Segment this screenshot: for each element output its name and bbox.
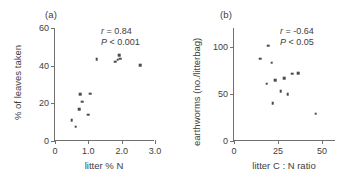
panel-b-y-tick xyxy=(230,47,234,48)
panel-a-r-value: = 0.84 xyxy=(104,26,132,36)
panel-a-x-tick xyxy=(122,140,123,144)
panel-a-data-point xyxy=(78,108,81,111)
panel-a-p-value: < 0.001 xyxy=(107,37,140,47)
panel-b-y-tick-label: 100 xyxy=(213,42,228,52)
panel-a-x-axis-title: litter % N xyxy=(85,160,124,171)
panel-b-r-value: = -0.64 xyxy=(283,26,314,36)
panel-b-y-tick-label: 50 xyxy=(218,89,228,99)
panel-b-data-point xyxy=(265,82,268,85)
panel-a-x-tick xyxy=(88,140,89,144)
panel-b-plot-area: r = -0.64 P < 0.05 05010002550 xyxy=(233,28,335,141)
panel-a-data-point xyxy=(87,113,90,116)
panel-b-data-point xyxy=(274,79,277,82)
panel-b-x-tick-label: 25 xyxy=(273,146,283,156)
panel-a-y-tick-label: 60 xyxy=(39,23,49,33)
panel-a-y-tick xyxy=(51,66,55,67)
panel-b-y-tick xyxy=(230,94,234,95)
panel-b-x-tick xyxy=(278,140,279,144)
panel-b-data-point xyxy=(283,77,286,80)
panel-b-data-point xyxy=(271,102,274,105)
panel-a-plot-area: r = 0.84 P < 0.001 020406001.02.03.0 xyxy=(54,28,154,141)
panel-a-y-axis-title: % of leaves taken xyxy=(12,45,23,120)
panel-b-data-point xyxy=(271,62,274,65)
figure-two-panel-scatter: (a) r = 0.84 P < 0.001 020406001.02.03.0… xyxy=(0,0,357,190)
panel-a-x-tick-label: 0 xyxy=(52,146,57,156)
panel-a-data-point xyxy=(74,126,77,129)
panel-a-data-point xyxy=(81,101,84,104)
panel-b-x-axis-title: litter C : N ratio xyxy=(252,160,315,171)
panel-b-label: (b) xyxy=(220,9,232,20)
panel-a-data-point xyxy=(114,61,117,64)
panel-a-y-tick-label: 20 xyxy=(39,98,49,108)
panel-b-data-point xyxy=(297,72,300,75)
panel-b-x-tick-label: 50 xyxy=(317,146,327,156)
panel-a-stats: r = 0.84 P < 0.001 xyxy=(101,26,140,48)
panel-a-data-point xyxy=(70,119,73,122)
panel-b-data-point xyxy=(279,90,282,93)
panel-b-p-value: < 0.05 xyxy=(286,37,314,47)
panel-a-data-point xyxy=(139,64,142,67)
panel-b-y-tick-label: 0 xyxy=(223,136,228,146)
panel-a-x-tick xyxy=(55,140,56,144)
panel-a-x-tick xyxy=(155,140,156,144)
panel-a-data-point xyxy=(118,54,121,57)
panel-a-y-tick-label: 0 xyxy=(44,136,49,146)
panel-a-y-tick xyxy=(51,103,55,104)
panel-a: (a) r = 0.84 P < 0.001 020406001.02.03.0… xyxy=(0,0,178,190)
panel-a-label: (a) xyxy=(45,9,57,20)
panel-a-data-point xyxy=(95,58,98,61)
panel-b-x-tick xyxy=(322,140,323,144)
panel-a-y-tick xyxy=(51,28,55,29)
panel-a-x-tick-label: 2.0 xyxy=(115,146,128,156)
panel-b-data-point xyxy=(267,45,270,48)
panel-a-y-tick-label: 40 xyxy=(39,61,49,71)
panel-b-data-point xyxy=(291,72,294,75)
panel-a-data-point xyxy=(89,92,92,95)
panel-a-x-tick-label: 1.0 xyxy=(82,146,95,156)
panel-a-x-tick-label: 3.0 xyxy=(149,146,162,156)
panel-b-data-point xyxy=(314,112,317,115)
panel-a-data-point xyxy=(79,93,82,96)
panel-b-x-tick xyxy=(234,140,235,144)
panel-b-y-axis-title: earthworms (no./litterbag) xyxy=(191,38,202,146)
panel-b-stats: r = -0.64 P < 0.05 xyxy=(280,26,314,48)
panel-b-data-point xyxy=(286,93,289,96)
panel-b-data-point xyxy=(259,57,262,60)
panel-a-data-point xyxy=(119,58,122,61)
panel-b-x-tick-label: 0 xyxy=(231,146,236,156)
